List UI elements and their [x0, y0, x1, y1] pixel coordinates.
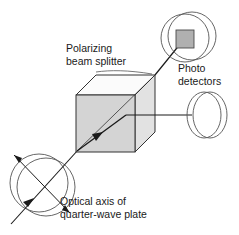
- beam-splitter-label-line1: Polarizing: [66, 42, 112, 54]
- optical-axis-label-line1: Optical axis of: [60, 195, 126, 207]
- input-beam-arrowhead: [23, 198, 34, 207]
- photo-detector-right-front-ellipse: [187, 92, 221, 138]
- beam-splitter-cube: [76, 75, 155, 152]
- optical-axis-label-line2: quarter-wave plate: [60, 208, 147, 220]
- photo-detector-top-sensor: [176, 30, 194, 48]
- photo-detectors-label-line2: detectors: [178, 75, 221, 87]
- photo-detector-right: [187, 92, 227, 138]
- diagram-canvas: Polarizing beam splitter Photo detectors…: [0, 0, 239, 235]
- optics-diagram: Polarizing beam splitter Photo detectors…: [0, 0, 239, 235]
- photo-detector-top: [161, 12, 216, 62]
- photo-detectors-label-line1: Photo: [178, 62, 206, 74]
- beam-splitter-leader-line: [96, 71, 152, 74]
- beam-splitter-label-line2: beam splitter: [66, 55, 127, 67]
- photo-detector-right-back-ellipse: [193, 92, 227, 138]
